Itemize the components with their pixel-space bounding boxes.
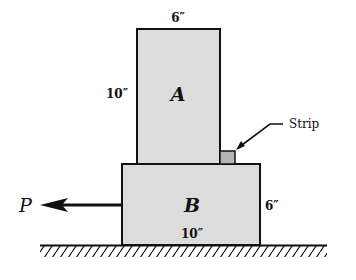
block-b-label: B bbox=[183, 194, 200, 216]
strip-body bbox=[220, 151, 235, 164]
force-p: P bbox=[18, 194, 121, 216]
block-a-label: A bbox=[169, 83, 186, 105]
strip-leader-arrowhead-icon bbox=[236, 141, 245, 150]
strip-leader-line bbox=[238, 124, 283, 148]
block-a-width-label: 6″ bbox=[171, 11, 185, 25]
block-a-height-label: 10″ bbox=[106, 87, 129, 101]
force-p-label: P bbox=[18, 194, 33, 216]
ground-hatching bbox=[40, 246, 327, 257]
diagram-canvas: B 10″ 6″ A 6″ 10″ Strip P bbox=[0, 0, 356, 280]
block-b: B 10″ 6″ bbox=[122, 164, 279, 245]
strip: Strip bbox=[220, 117, 320, 164]
block-a: A 6″ 10″ bbox=[106, 11, 220, 164]
block-b-width-label: 10″ bbox=[181, 227, 204, 241]
block-b-height-label: 6″ bbox=[265, 199, 279, 213]
strip-label: Strip bbox=[289, 117, 320, 131]
ground bbox=[40, 246, 327, 258]
